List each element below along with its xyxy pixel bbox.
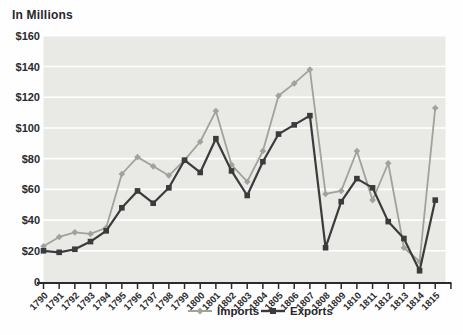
exports-marker: [291, 122, 297, 128]
y-axis-tick-label: $40: [22, 214, 40, 226]
exports-marker: [244, 193, 250, 199]
exports-marker: [182, 157, 188, 163]
y-axis-tick-label: $20: [22, 245, 40, 257]
exports-marker: [401, 236, 407, 242]
legend-exports-label: Exports: [290, 305, 333, 317]
exports-marker: [354, 176, 360, 182]
exports-marker: [417, 268, 423, 274]
y-axis-tick-label: $80: [22, 153, 40, 165]
x-axis-year-label: 1815: [419, 289, 442, 312]
exports-marker: [72, 246, 78, 252]
imports-exports-line-chart: $160$140$120$100$80$60$40$20017901791179…: [0, 0, 463, 335]
exports-marker: [166, 185, 172, 191]
exports-marker: [103, 228, 109, 234]
y-axis-tick-label: $160: [16, 30, 40, 42]
y-axis-tick-label: $60: [22, 183, 40, 195]
exports-marker: [88, 239, 94, 245]
y-axis-tick-label: 0: [34, 276, 40, 288]
exports-marker: [385, 219, 391, 225]
exports-marker: [197, 170, 203, 176]
exports-marker: [432, 197, 438, 203]
legend-imports-label: Imports: [217, 305, 259, 317]
exports-marker: [41, 248, 47, 254]
exports-marker: [307, 113, 313, 119]
exports-marker: [56, 250, 62, 256]
y-axis-tick-label: $140: [16, 61, 40, 73]
exports-marker: [135, 188, 141, 194]
exports-marker: [150, 200, 156, 206]
exports-marker: [119, 205, 125, 211]
exports-marker: [323, 245, 329, 251]
exports-marker: [370, 185, 376, 191]
exports-marker: [260, 159, 266, 165]
exports-marker: [229, 168, 235, 174]
exports-marker: [213, 136, 219, 142]
legend-exports-marker: [270, 308, 276, 314]
y-axis-tick-label: $120: [16, 91, 40, 103]
chart-figure: In Millions $160$140$120$100$80$60$40$20…: [0, 0, 463, 335]
exports-marker: [338, 199, 344, 205]
exports-marker: [276, 131, 282, 137]
y-axis-tick-label: $100: [16, 122, 40, 134]
